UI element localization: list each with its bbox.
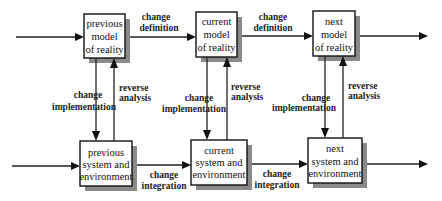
edge-label-line: implementation [52,102,117,112]
edge-label-line: analysis [348,91,381,101]
edge-label-line: change [150,170,179,180]
arrowhead-icon [299,160,308,168]
node-label-line: current [204,145,234,156]
arrowhead-icon [203,130,211,140]
arrowhead-icon [321,128,329,138]
node-next-model: next model of reality [313,11,360,61]
node-label-line: of reality [197,42,236,53]
node-label-line: next [326,143,344,154]
edge-output-from-next-system [367,160,428,168]
edge-reverse-analysis-1: reverse analysis [110,58,152,141]
edge-label-line: reverse [119,83,148,93]
node-label-line: model [91,31,117,42]
edge-label-line: reverse [231,82,260,92]
node-label-line: next [325,16,343,27]
node-label-line: system and [312,156,360,167]
node-next-system: next system and environment [308,138,367,188]
node-label-line: of reality [315,42,354,53]
edge-label-line: change [259,12,288,22]
arrowhead-icon [75,33,84,41]
evolution-diagram: previous model of reality current model … [0,0,442,201]
node-label-line: model [203,29,229,40]
edge-label-line: change [185,93,214,103]
edge-reverse-analysis-3: reverse analysis [339,56,381,138]
edge-label-line: change [142,12,171,22]
arrowhead-icon [92,131,100,141]
node-current-model: current model of reality [196,12,242,62]
edge-reverse-analysis-2: reverse analysis [223,57,264,140]
node-previous-model: previous model of reality [84,14,130,63]
node-current-system: current system and environment [191,140,252,190]
edge-change-definition-1: change definition [130,12,196,41]
node-label-line: of reality [85,44,124,55]
node-label-line: previous [86,18,122,29]
arrowhead-icon [419,32,428,40]
edge-change-definition-2: change definition [242,12,313,40]
edge-change-implementation-1: change implementation [52,58,117,141]
edge-label-line: integration [142,181,188,191]
arrowhead-icon [71,162,80,170]
edge-input-to-previous-model [16,33,84,41]
edge-label-line: implementation [272,103,337,113]
arrowhead-icon [304,32,313,40]
edge-change-implementation-3: change implementation [272,56,337,138]
node-label-line: model [321,29,347,40]
edge-label-line: change [263,169,292,179]
node-label-line: environment [79,171,132,182]
edge-change-integration-1: change integration [137,161,191,191]
arrowhead-icon [187,33,196,41]
node-label-line: previous [88,147,124,158]
node-label-line: environment [192,169,245,180]
edge-label-line: definition [139,23,179,33]
node-label-line: current [202,16,232,27]
edge-input-to-previous-system [12,162,80,170]
node-label-line: system and [196,157,244,168]
edge-label-line: analysis [231,92,264,102]
edge-label-line: change [302,93,331,103]
edge-label-line: change [74,90,103,100]
edge-label-line: implementation [162,104,227,114]
node-previous-system: previous system and environment [79,141,137,191]
edge-label-line: definition [253,23,293,33]
edge-label-line: analysis [119,93,152,103]
edge-change-integration-2: change integration [252,160,308,190]
arrowhead-icon [419,160,428,168]
node-label-line: system and [83,159,131,170]
edge-label-line: reverse [348,81,377,91]
arrowhead-icon [182,161,191,169]
edge-output-from-next-model [360,32,428,40]
edge-label-line: integration [255,180,301,190]
node-label-line: environment [308,168,361,179]
edge-change-implementation-2: change implementation [162,57,227,140]
